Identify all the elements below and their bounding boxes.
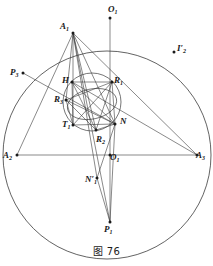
segment-R1-N [112, 82, 115, 124]
label-O1-top: O1 [108, 5, 118, 15]
label-R3: R3 [54, 95, 63, 105]
label-R1: R1 [114, 76, 123, 86]
point-T1 [72, 124, 75, 127]
label-N1-prime: N′1 [85, 175, 97, 185]
point-P3 [22, 72, 25, 75]
segment-N1p-P1 [97, 178, 110, 222]
label-A2: A2 [3, 151, 12, 161]
point-R2 [95, 129, 98, 132]
segment-A3-H [72, 82, 197, 155]
construction-lines [17, 18, 197, 222]
point-I2p [173, 51, 176, 54]
figure-caption: 图 76 [0, 243, 213, 258]
label-P3: P3 [10, 68, 19, 78]
point-A1 [72, 32, 75, 35]
point-H [71, 81, 74, 84]
point-R3 [65, 99, 68, 102]
label-R2: R2 [96, 135, 105, 145]
label-H: H [62, 76, 69, 86]
label-A1: A1 [60, 22, 69, 32]
point-O1_top [109, 17, 112, 20]
point-N [114, 123, 117, 126]
segment-T1-N [73, 124, 115, 125]
segment-R2-N [96, 124, 115, 130]
label-O1-center: O1 [110, 153, 120, 163]
label-P1: P1 [104, 225, 113, 235]
label-N: N [120, 117, 127, 127]
segment-A1-R2 [73, 33, 96, 130]
figure-76-container: ￼ ￼ ￼ ￼ ￼ ￼ ￼ A1 A2 A3 O1 O1 P1 P3 I′2 H… [0, 0, 213, 266]
label-T1: T1 [62, 120, 71, 130]
label-A3: A3 [196, 151, 205, 161]
segment-N-N1p [97, 124, 115, 178]
segment-R3-N [66, 100, 115, 124]
segment-N-P1 [110, 124, 115, 222]
label-I2-prime: I′2 [177, 44, 186, 54]
point-A2 [16, 154, 19, 157]
segment-A1-A2 [17, 33, 73, 155]
